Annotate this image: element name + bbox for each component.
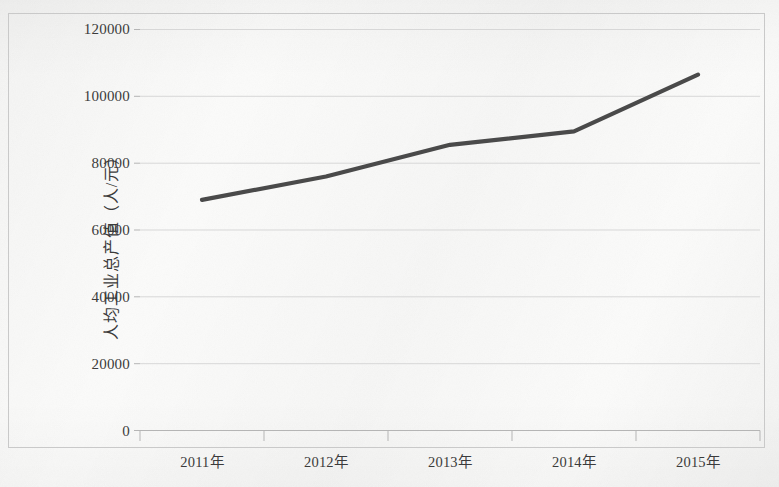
y-tick-label-120000: 120000 bbox=[46, 21, 130, 38]
x-tick-label-2011: 2011年 bbox=[180, 450, 223, 471]
x-axis-ticks bbox=[140, 431, 760, 442]
x-tick-label-2015: 2015年 bbox=[676, 450, 720, 471]
gridlines bbox=[140, 30, 760, 364]
y-axis-title: 人均工业总产值（人/元） bbox=[98, 147, 122, 339]
y-tick-label-100000: 100000 bbox=[46, 88, 130, 105]
x-tick-label-2014: 2014年 bbox=[552, 450, 596, 471]
y-tick-label-20000: 20000 bbox=[46, 356, 130, 373]
data-series-line bbox=[202, 75, 698, 200]
y-tick-label-0: 0 bbox=[46, 423, 130, 440]
y-axis-ticks bbox=[134, 30, 140, 431]
x-tick-label-2012: 2012年 bbox=[304, 450, 348, 471]
x-tick-label-2013: 2013年 bbox=[428, 450, 472, 471]
